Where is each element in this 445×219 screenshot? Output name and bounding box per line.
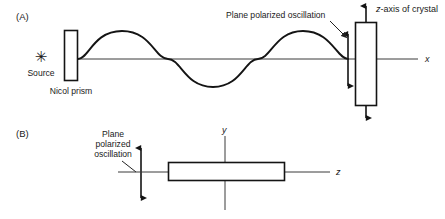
- source-label: Source: [27, 68, 54, 78]
- crystal-shape: [356, 23, 377, 106]
- panel-b-label: (B): [16, 128, 29, 139]
- crystal-z-axis-label-text: -axis of crystal: [381, 4, 439, 14]
- figure-root: (A) ✳ Source Nicol prism x Plane polariz…: [0, 0, 445, 219]
- panel-a: (A) ✳ Source Nicol prism x Plane polariz…: [16, 4, 438, 118]
- crystal-slab-shape: [169, 163, 285, 181]
- annotation-leader-line-b: [122, 161, 136, 172]
- panel-b: (B) Plane polarized oscillation z y: [16, 125, 341, 210]
- panel-a-label: (A): [16, 11, 29, 22]
- x-axis-label: x: [424, 54, 430, 64]
- crystal-z-axis-label: z-axis of crystal: [375, 4, 438, 14]
- nicol-prism-label: Nicol prism: [50, 86, 93, 96]
- plane-polarized-annotation-line2: polarized: [96, 139, 131, 149]
- plane-polarized-annotation: Plane polarized oscillation: [226, 10, 326, 20]
- nicol-prism-shape: [65, 31, 78, 81]
- y-axis-label: y: [221, 125, 227, 135]
- annotation-leader-line: [330, 21, 345, 36]
- z-axis-label: z: [335, 167, 341, 177]
- plane-polarized-annotation-line3: oscillation: [94, 149, 132, 159]
- plane-polarized-annotation-line1: Plane: [102, 129, 124, 139]
- polarization-diagram: (A) ✳ Source Nicol prism x Plane polariz…: [0, 0, 445, 219]
- source-star-icon: ✳: [35, 48, 48, 66]
